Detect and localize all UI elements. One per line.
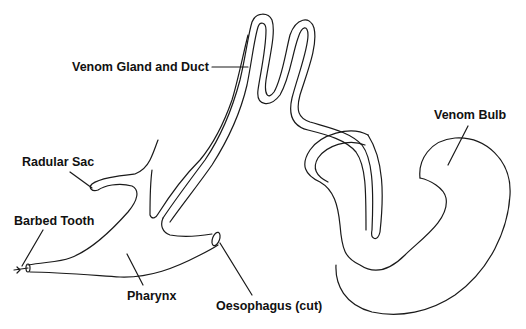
cone-snail-venom-apparatus-diagram: Venom Gland and Duct Venom Bulb Radular … (0, 0, 526, 329)
label-barbed-tooth: Barbed Tooth (14, 215, 94, 228)
label-venom-bulb: Venom Bulb (434, 109, 506, 122)
venom-duct-loop-inner (315, 142, 365, 182)
label-venom-gland-and-duct: Venom Gland and Duct (72, 61, 209, 74)
label-oesophagus-cut: Oesophagus (cut) (216, 300, 322, 313)
label-radular-sac: Radular Sac (22, 156, 94, 169)
leader-venom-bulb (448, 126, 468, 165)
venom-duct-outer (163, 14, 382, 238)
leader-pharynx (127, 254, 143, 285)
venom-duct-inner (170, 23, 366, 230)
leader-oesophagus (220, 243, 252, 295)
leader-barbed-tooth (22, 230, 43, 266)
label-pharynx: Pharynx (127, 290, 176, 303)
leader-radular-sac (70, 172, 92, 188)
